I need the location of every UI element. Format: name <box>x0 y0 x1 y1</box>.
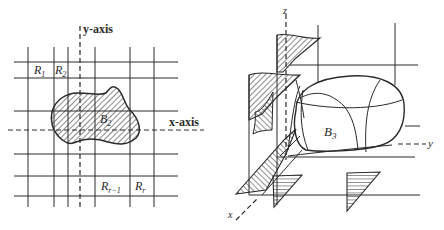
solid-contour <box>300 93 358 150</box>
x-axis-label-3d: x <box>227 209 233 220</box>
cell-label-r2: R2 <box>54 63 66 79</box>
solid-contour <box>301 90 308 150</box>
cell-label-r-minus-1: Rr−1 <box>100 179 121 195</box>
diagram-canvas: y-axis x-axis R1 R2 Rr−1 Rr B2 <box>0 0 444 230</box>
solid-contour <box>366 80 380 152</box>
solid-contour <box>288 145 392 156</box>
x-axis-line-3d <box>236 198 258 220</box>
cross-section-front-left <box>273 175 302 207</box>
y-axis-label: y-axis <box>83 22 113 36</box>
cell-label-r1: R1 <box>33 63 45 79</box>
y-axis-label-3d: y <box>427 137 433 149</box>
z-axis-label: z <box>282 5 287 16</box>
solid-contour <box>296 80 304 118</box>
cell-label-rr: Rr <box>134 179 146 195</box>
solid-label-b3: B3 <box>324 124 337 141</box>
right-figure-3d-solid <box>236 14 426 220</box>
cross-section-upper <box>277 34 320 72</box>
x-axis-label: x-axis <box>169 115 199 129</box>
solid-contour <box>296 100 402 108</box>
cross-section-front-right <box>347 172 380 211</box>
